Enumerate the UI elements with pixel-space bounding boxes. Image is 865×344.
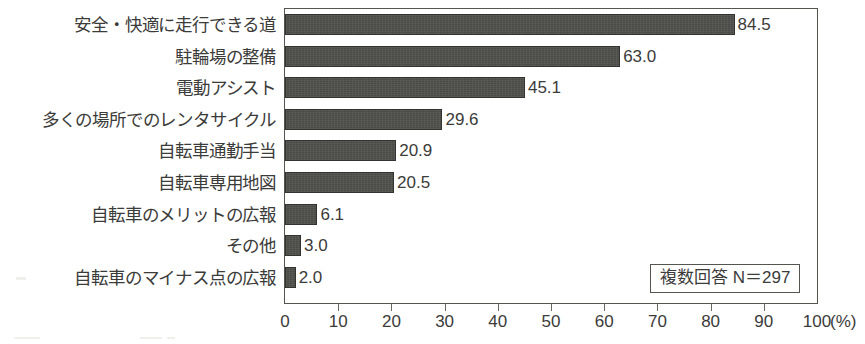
x-axis-tick-label: 80 <box>701 312 720 332</box>
x-axis-tick <box>764 304 765 311</box>
x-axis-tick <box>657 304 658 311</box>
bars-layer: 84.563.045.129.620.920.56.13.02.0 <box>284 8 818 304</box>
chart-note-text: 複数回答 N＝297 <box>660 268 790 287</box>
category-label: 多くの場所でのレンタサイクル <box>42 109 276 131</box>
x-axis-tick-label: 30 <box>435 312 454 332</box>
x-axis: (%) 0102030405060708090100 <box>284 304 818 344</box>
category-label: 自転車のメリットの広報 <box>91 204 276 226</box>
bar-value-label: 2.0 <box>299 267 323 288</box>
bar <box>285 46 620 67</box>
bar <box>285 140 396 161</box>
chart-note-box: 複数回答 N＝297 <box>650 264 800 293</box>
x-axis-tick-label: 60 <box>595 312 614 332</box>
bar <box>285 172 394 193</box>
x-axis-tick-label: 70 <box>648 312 667 332</box>
bar <box>285 77 525 98</box>
x-axis-tick-label: 10 <box>329 312 348 332</box>
category-label: 自転車のマイナス点の広報 <box>74 267 276 289</box>
bar <box>285 109 442 130</box>
x-axis-tick-label: 20 <box>382 312 401 332</box>
scan-artifact-1 <box>16 277 26 280</box>
bar-value-label: 20.5 <box>397 172 430 193</box>
x-axis-tick <box>498 304 499 311</box>
bar-chart: 安全・快適に走行できる道駐輪場の整備電動アシスト多くの場所でのレンタサイクル自転… <box>0 0 865 344</box>
bar-value-label: 20.9 <box>399 140 432 161</box>
bar <box>285 204 317 225</box>
bar <box>285 267 296 288</box>
category-label: 自転車専用地図 <box>158 172 276 194</box>
x-axis-tick <box>604 304 605 311</box>
scan-artifact-2 <box>14 337 40 339</box>
x-axis-tick <box>338 304 339 311</box>
bar <box>285 14 735 35</box>
x-axis-tick-label: 50 <box>542 312 561 332</box>
bar-value-label: 84.5 <box>738 14 771 35</box>
scan-artifact-3 <box>140 337 162 339</box>
x-axis-tick <box>551 304 552 311</box>
category-label: 安全・快適に走行できる道 <box>74 14 276 36</box>
bar <box>285 235 301 256</box>
x-axis-tick <box>445 304 446 311</box>
category-axis-labels: 安全・快適に走行できる道駐輪場の整備電動アシスト多くの場所でのレンタサイクル自転… <box>0 0 280 300</box>
category-label: 駐輪場の整備 <box>175 46 276 68</box>
x-axis-tick <box>711 304 712 311</box>
x-axis-tick-label: 90 <box>754 312 773 332</box>
bar-value-label: 63.0 <box>623 46 656 67</box>
bar-value-label: 3.0 <box>304 235 328 256</box>
bar-value-label: 6.1 <box>320 204 344 225</box>
category-label: 自転車通勤手当 <box>158 140 276 162</box>
category-label: 電動アシスト <box>176 77 276 99</box>
bar-value-label: 45.1 <box>528 77 561 98</box>
category-label: その他 <box>226 235 276 257</box>
bar-value-label: 29.6 <box>445 109 478 130</box>
x-axis-unit-label: (%) <box>830 312 856 332</box>
x-axis-tick-label: 100 <box>803 312 831 332</box>
x-axis-tick-label: 0 <box>280 312 289 332</box>
x-axis-tick <box>391 304 392 311</box>
x-axis-tick-label: 40 <box>488 312 507 332</box>
scan-artifact-4 <box>167 337 175 339</box>
